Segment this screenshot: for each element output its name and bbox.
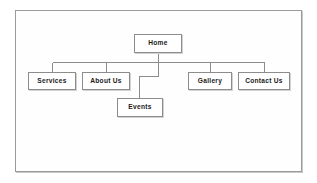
node-contact-us[interactable]: Contact Us xyxy=(238,72,290,90)
node-contact-us-label: Contact Us xyxy=(245,78,283,85)
diagram-canvas: Home Services About Us Events Gallery Co… xyxy=(0,0,317,183)
node-about-us[interactable]: About Us xyxy=(82,72,130,90)
node-about-us-label: About Us xyxy=(90,78,122,85)
node-events[interactable]: Events xyxy=(117,98,163,117)
node-services[interactable]: Services xyxy=(28,72,76,90)
node-home-label: Home xyxy=(148,40,167,47)
node-gallery-label: Gallery xyxy=(198,78,222,85)
node-services-label: Services xyxy=(37,78,66,85)
node-events-label: Events xyxy=(128,104,151,111)
node-gallery[interactable]: Gallery xyxy=(188,72,232,90)
node-home[interactable]: Home xyxy=(134,34,182,53)
